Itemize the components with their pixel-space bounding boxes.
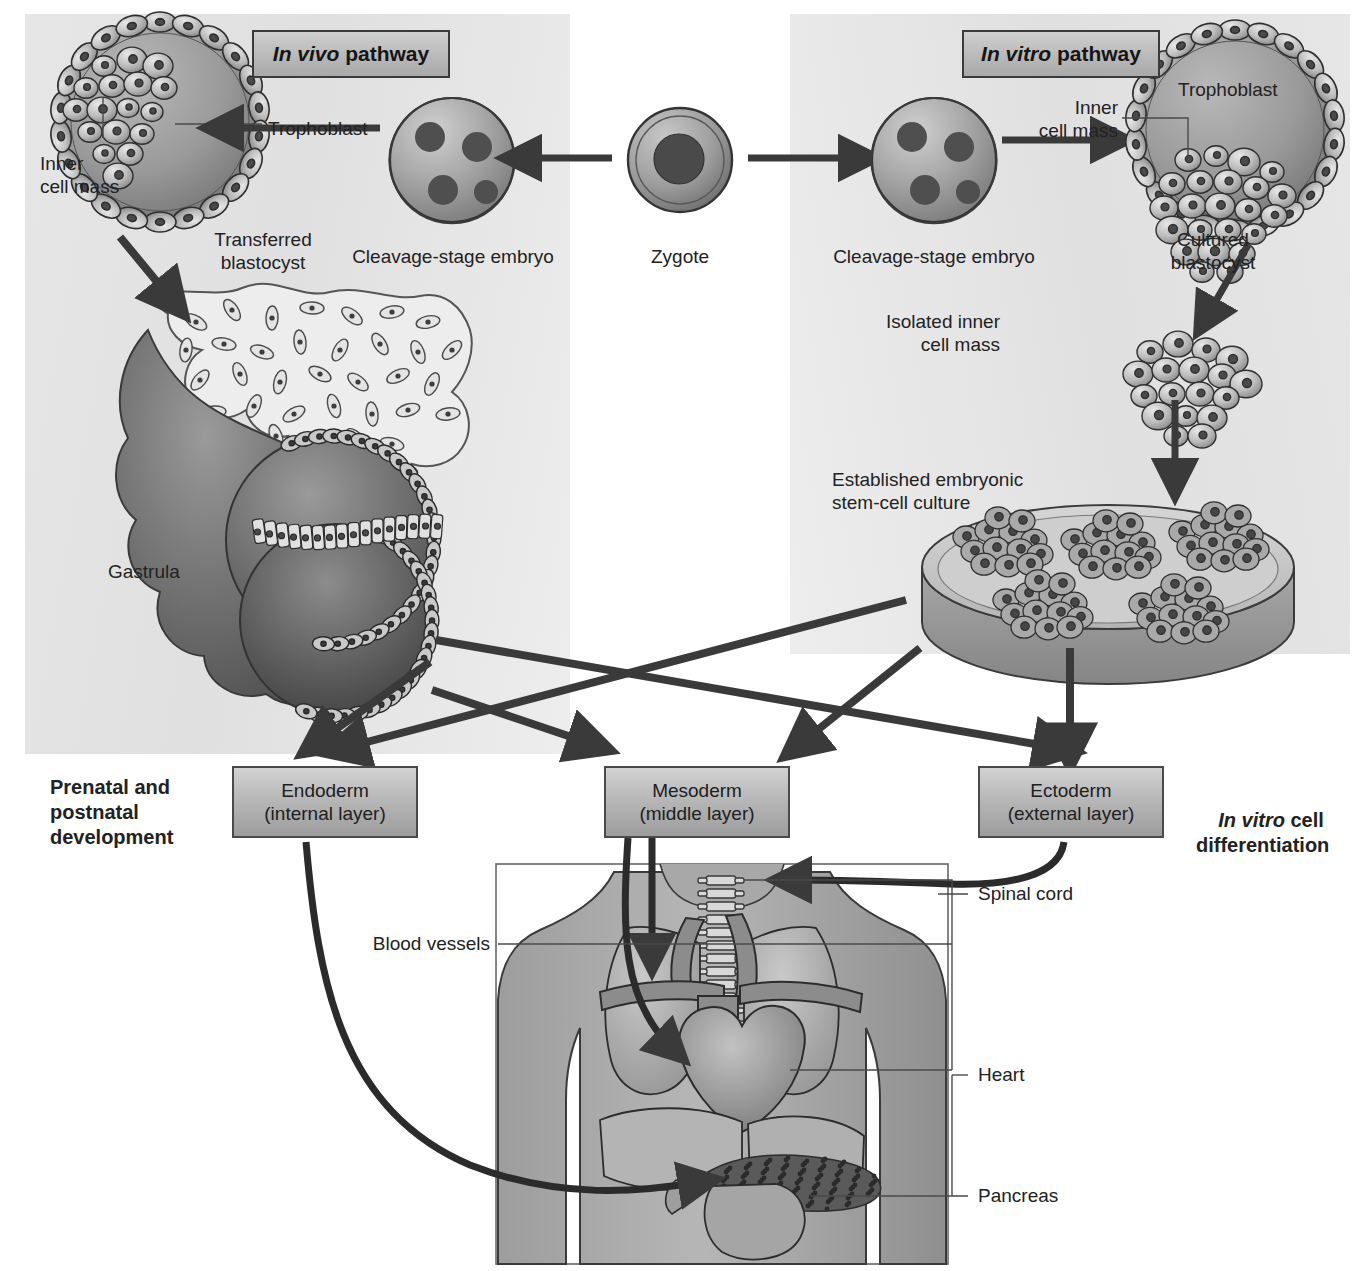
zygote-icon — [628, 108, 732, 212]
petri-dish-icon — [922, 502, 1294, 684]
germ-layer-box-endoderm[interactable]: Endoderm (internal layer) — [232, 766, 418, 838]
germ-layer-name-endoderm: Endoderm — [281, 779, 369, 802]
arrow-blastocyst-to-gastrula — [120, 237, 172, 300]
label-gastrula: Gastrula — [108, 560, 180, 583]
caption-cleavage-embryo-right: Cleavage-stage embryo — [816, 245, 1052, 268]
label-blood-vessels: Blood vessels — [330, 932, 490, 955]
in-vivo-italic: In vivo — [273, 42, 340, 65]
label-heart: Heart — [978, 1063, 1024, 1086]
label-inner-cell-mass-left: Inner cell mass — [40, 152, 119, 198]
germ-layer-sub-ectoderm: (external layer) — [1008, 802, 1135, 825]
cleavage-embryo-right-icon — [871, 98, 996, 223]
label-in-vitro-cell-differentiation: In vitro cell differentiation — [1196, 783, 1329, 883]
in-vitro-pathway-header: In vitro pathway — [962, 30, 1160, 78]
in-vivo-pathway-header: In vivo pathway — [252, 30, 450, 78]
in-vivo-rest: pathway — [339, 42, 429, 65]
in-vitro-diff-italic: In vitro — [1218, 809, 1285, 831]
diagram-artwork — [0, 0, 1360, 1271]
arrow-culture-to-mesoderm — [800, 648, 920, 744]
caption-zygote: Zygote — [600, 245, 760, 268]
germ-layer-sub-endoderm: (internal layer) — [264, 802, 385, 825]
label-prenatal-postnatal-development: Prenatal and postnatal development — [50, 775, 173, 850]
isolated-inner-cell-mass-icon — [1123, 331, 1262, 448]
human-torso-icon — [496, 864, 948, 1264]
arrow-ectoderm-to-spinal-cord — [790, 842, 1064, 884]
germ-layer-name-ectoderm: Ectoderm — [1030, 779, 1111, 802]
label-trophoblast-left: Trophoblast — [268, 117, 368, 140]
transferred-blastocyst-icon — [49, 12, 271, 232]
in-vitro-rest: pathway — [1051, 42, 1141, 65]
caption-cultured-blastocyst: Cultured blastocyst — [1128, 228, 1298, 274]
cleavage-embryo-left-icon — [389, 98, 514, 223]
label-pancreas: Pancreas — [978, 1184, 1058, 1207]
label-spinal-cord: Spinal cord — [978, 882, 1073, 905]
germ-layer-sub-mesoderm: (middle layer) — [639, 802, 754, 825]
germ-layer-name-mesoderm: Mesoderm — [652, 779, 742, 802]
label-isolated-inner-cell-mass: Isolated inner cell mass — [836, 310, 1000, 356]
gastrula-icon — [116, 284, 472, 724]
germ-layer-box-ectoderm[interactable]: Ectoderm (external layer) — [978, 766, 1164, 838]
label-trophoblast-right: Trophoblast — [1178, 78, 1278, 101]
caption-transferred-blastocyst: Transferred blastocyst — [178, 228, 348, 274]
label-established-culture: Established embryonic stem-cell culture — [832, 468, 1023, 514]
in-vitro-italic: In vitro — [981, 42, 1051, 65]
label-inner-cell-mass-right: Inner cell mass — [988, 96, 1118, 142]
germ-layer-box-mesoderm[interactable]: Mesoderm (middle layer) — [604, 766, 790, 838]
caption-cleavage-embryo-left: Cleavage-stage embryo — [335, 245, 571, 268]
diagram-canvas: In vivo pathway In vitro pathway Trophob… — [0, 0, 1360, 1271]
